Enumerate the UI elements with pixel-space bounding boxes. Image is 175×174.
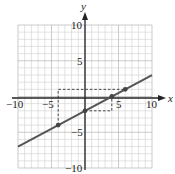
y-tick-neg5: −5	[71, 126, 83, 138]
x-tick-10: 10	[146, 98, 158, 110]
x-axis-label: x	[167, 92, 173, 104]
data-point	[109, 94, 114, 99]
data-point	[123, 87, 128, 92]
y-tick-10: 10	[71, 19, 83, 31]
y-tick-neg10: −10	[65, 162, 83, 174]
coordinate-plane: x y −10 −5 5 10 10 5 −5 −10	[0, 0, 175, 174]
y-tick-5: 5	[77, 55, 83, 67]
y-axis-arrow-icon	[82, 12, 88, 20]
y-axis-label: y	[80, 0, 86, 12]
x-tick-neg5: −5	[42, 98, 54, 110]
data-point	[56, 123, 61, 128]
data-point	[83, 108, 88, 113]
x-tick-5: 5	[116, 98, 122, 110]
x-tick-neg10: −10	[6, 98, 24, 110]
x-axis-arrow-icon	[158, 95, 166, 101]
